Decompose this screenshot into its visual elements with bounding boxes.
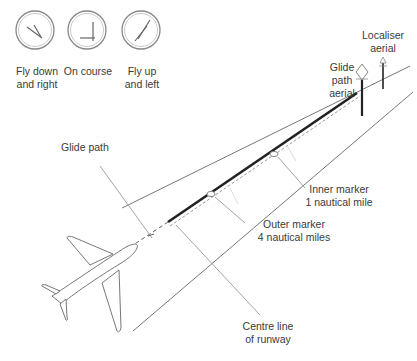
outer-marker-leader — [215, 197, 245, 223]
inner-marker-icon — [270, 151, 278, 156]
label-inner-marker: Inner marker 1 nautical mile — [299, 183, 379, 209]
label-fly-down-right: Fly down and right — [14, 65, 60, 91]
label-centre-line: Centre line of runway — [238, 320, 298, 346]
localiser-aerial-icon — [379, 57, 387, 89]
glide-path-leader — [100, 166, 152, 238]
indicator-fly-up-left-icon — [122, 11, 160, 49]
label-on-course: On course — [63, 65, 113, 78]
ils-diagram — [0, 0, 417, 361]
aircraft-icon — [42, 236, 138, 331]
outer-marker-icon — [207, 191, 215, 196]
centre-line-leader — [176, 225, 260, 315]
indicator-on-course-icon — [68, 11, 106, 49]
indicator-fly-down-right-icon — [16, 11, 54, 49]
beam-lower-edge — [133, 92, 413, 331]
label-localiser-aerial: Localiser aerial — [359, 29, 407, 55]
label-outer-marker: Outer marker 4 nautical miles — [255, 218, 333, 244]
label-fly-up-left: Fly up and left — [122, 65, 162, 91]
label-glide-path-aerial: Glide path aerial — [326, 61, 358, 100]
label-glide-path: Glide path — [61, 141, 109, 154]
